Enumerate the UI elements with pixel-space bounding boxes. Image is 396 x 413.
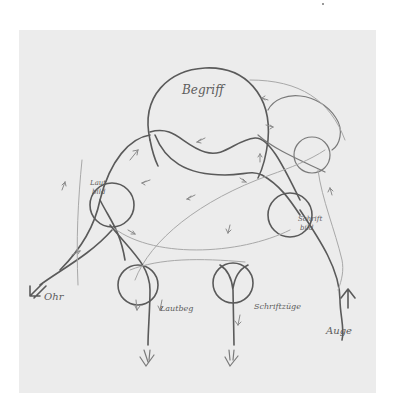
schriftbild-label-2: bild — [300, 225, 313, 232]
central-band-upper — [150, 131, 300, 200]
arrow-icon — [235, 315, 241, 325]
schriftzuege-label: Schriftzüge — [254, 303, 301, 311]
left-vertical — [77, 160, 82, 285]
output-arrow-left-icon — [140, 350, 154, 366]
output-arrow-right-icon — [225, 350, 238, 366]
arrow-icon — [187, 195, 195, 200]
arrow-icon — [240, 178, 246, 182]
auge-arrow-icon — [341, 289, 355, 308]
central-band-lower — [155, 135, 300, 215]
arrow-icon — [142, 180, 150, 185]
arrow-icon — [266, 125, 273, 129]
top-right-loop — [268, 96, 340, 150]
arrow-icon — [226, 225, 231, 233]
auge-label: Auge — [326, 326, 352, 336]
arrow-icon — [130, 150, 138, 160]
arrow-icon — [197, 138, 205, 143]
lautbild-label-2: bild — [92, 189, 105, 196]
arrow-icon — [62, 182, 66, 190]
arrow-icon — [328, 188, 333, 195]
arrow-icon — [262, 96, 268, 100]
top-right-circle — [294, 137, 330, 173]
lautbild-label-1: Laut — [90, 180, 106, 187]
begriff-label: Begriff — [182, 84, 224, 96]
arrow-icon — [128, 230, 135, 234]
arrow-icon — [258, 154, 262, 162]
lautbewegung-circle — [118, 265, 158, 305]
lautbewegung-label: Lautbeg — [160, 305, 193, 313]
sketch-diagram — [0, 0, 396, 413]
schriftbild-label-1: Schrift — [298, 216, 322, 223]
ohr-label: Ohr — [44, 292, 63, 302]
